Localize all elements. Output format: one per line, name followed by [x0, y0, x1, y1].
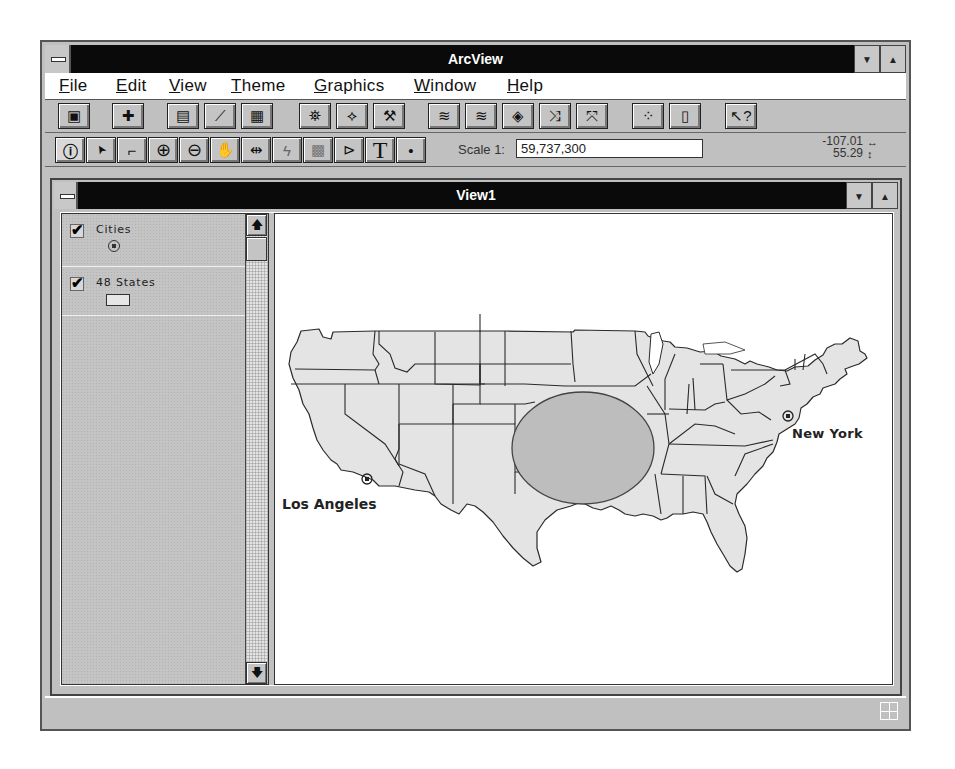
menu-theme[interactable]: Theme	[231, 76, 285, 96]
theme-visibility-checkbox[interactable]: ✔	[70, 224, 84, 238]
scale-label: Scale 1:	[458, 142, 505, 157]
view-maximize-button[interactable]: ▲	[872, 182, 898, 209]
scroll-down-button[interactable]: 🡇	[246, 662, 267, 684]
menu-view[interactable]: View	[169, 76, 207, 96]
hammer-question-icon: ⚒	[383, 107, 396, 125]
measure-icon: ⇹	[250, 141, 263, 159]
text-icon: T	[373, 137, 388, 164]
menu-label: indow	[430, 76, 476, 95]
text-tool[interactable]: T	[365, 137, 395, 163]
menu-graphics[interactable]: Graphics	[314, 76, 384, 96]
menu-accel: G	[314, 76, 328, 95]
pointer-tool[interactable]: ➤	[86, 137, 116, 163]
toc-vertical-scrollbar[interactable]: 🡅 🡇	[245, 214, 268, 684]
theme-properties-icon: ▤	[176, 107, 190, 125]
menu-file[interactable]: File	[59, 76, 88, 96]
down-arrow-icon: 🡇	[251, 666, 263, 680]
layers-icon: ≋	[438, 107, 451, 125]
save-project-button[interactable]: ▣	[58, 103, 90, 129]
lake-erie	[703, 342, 745, 354]
polygon-symbol-icon	[106, 294, 130, 306]
resize-grip-icon[interactable]	[880, 702, 898, 720]
clear-selected-button[interactable]: ▯	[669, 103, 701, 129]
pan-tool[interactable]: ✋	[210, 137, 240, 163]
app-title-bar[interactable]: ArcView ▼ ▲	[45, 45, 906, 73]
zoom-to-themes-button[interactable]: ≋	[465, 103, 497, 129]
menu-accel: T	[231, 76, 242, 95]
clear-selection-icon: ▯	[681, 107, 689, 125]
us-states-map	[275, 214, 895, 687]
find-button[interactable]: ⛯	[299, 103, 331, 129]
menu-window[interactable]: Window	[414, 76, 476, 96]
map-display[interactable]: Los Angeles New York	[274, 213, 893, 685]
hot-link-tool[interactable]: ϟ	[272, 137, 302, 163]
zoom-out-tool[interactable]: ⊖	[179, 137, 209, 163]
maximize-button[interactable]: ▲	[880, 45, 906, 73]
theme-visibility-checkbox[interactable]: ✔	[70, 277, 84, 291]
add-theme-button[interactable]: ✚	[112, 103, 144, 129]
layers-down-icon: ≋	[475, 107, 488, 125]
minimize-icon: ▼	[862, 54, 872, 65]
label-tool[interactable]: ⊳	[334, 137, 364, 163]
diamond-arrow-icon: ◈	[512, 107, 524, 125]
draw-point-tool[interactable]: •	[396, 137, 426, 163]
label-los-angeles[interactable]: Los Angeles	[282, 496, 377, 512]
arrows-inward-icon: ⤨	[549, 107, 561, 125]
select-feature-tool[interactable]: ▩	[303, 137, 333, 163]
y-coordinate: 55.29	[815, 147, 863, 159]
select-graphic-icon: ⁘	[642, 107, 655, 125]
theme-properties-button[interactable]: ▤	[167, 103, 199, 129]
zoom-out-fixed-button[interactable]: ⤧	[576, 103, 608, 129]
zoom-in-tool[interactable]: ⊕	[148, 137, 178, 163]
view-minimize-button[interactable]: ▼	[846, 182, 872, 209]
view-body: ✔ Cities ✔ 48 States 🡅 🡇	[60, 212, 894, 686]
identify-tool[interactable]: ⓘ	[55, 137, 85, 163]
maximize-icon: ▲	[888, 54, 898, 65]
locate-address-button[interactable]: ⟡	[336, 103, 368, 129]
query-builder-button[interactable]: ⚒	[373, 103, 405, 129]
table-icon: ▦	[250, 107, 264, 125]
selection-ellipse-graphic[interactable]	[512, 392, 654, 504]
menu-accel: W	[414, 76, 430, 95]
minimize-button[interactable]: ▼	[854, 45, 880, 73]
vertex-edit-tool[interactable]: ⌐	[117, 137, 147, 163]
theme-entry-cities[interactable]: ✔ Cities	[62, 214, 248, 267]
zoom-in-fixed-button[interactable]: ⤨	[539, 103, 571, 129]
label-new-york[interactable]: New York	[792, 426, 863, 441]
measure-tool[interactable]: ⇹	[241, 137, 271, 163]
coordinate-arrows: ↔ ↕	[867, 136, 878, 160]
view-title-bar[interactable]: View1 ▼ ▲	[54, 182, 898, 209]
up-arrow-icon: 🡅	[251, 218, 263, 232]
menu-edit[interactable]: Edit	[116, 76, 147, 96]
menu-accel: F	[59, 76, 70, 95]
app-title: ArcView	[45, 45, 906, 73]
view-title: View1	[54, 182, 898, 209]
zoom-in-icon: ⊕	[156, 139, 171, 161]
theme-entry-48-states[interactable]: ✔ 48 States	[62, 267, 248, 316]
scroll-thumb[interactable]	[246, 237, 267, 261]
help-button[interactable]: ↖?	[725, 103, 757, 129]
theme-name: Cities	[96, 223, 131, 236]
vertex-icon: ⌐	[128, 142, 137, 159]
binoculars-icon: ⛯	[309, 107, 321, 125]
menu-accel: V	[169, 76, 180, 95]
arrows-outward-icon: ⤧	[586, 107, 598, 125]
menu-label: heme	[242, 76, 286, 95]
add-theme-icon: ✚	[122, 107, 135, 125]
point-icon: •	[408, 142, 413, 159]
edit-legend-button[interactable]: ⟋	[204, 103, 236, 129]
select-feature-icon: ▩	[311, 141, 325, 159]
zoom-out-icon: ⊖	[187, 139, 202, 161]
info-icon: ⓘ	[63, 140, 78, 161]
menu-help[interactable]: Help	[507, 76, 543, 96]
open-theme-table-button[interactable]: ▦	[241, 103, 273, 129]
status-bar	[45, 696, 906, 726]
theme-name: 48 States	[96, 276, 156, 289]
table-of-contents: ✔ Cities ✔ 48 States 🡅 🡇	[61, 213, 269, 685]
scale-input[interactable]: 59,737,300	[516, 139, 703, 158]
zoom-to-selected-button[interactable]: ◈	[502, 103, 534, 129]
scroll-up-button[interactable]: 🡅	[246, 214, 267, 236]
zoom-to-full-extent-button[interactable]: ≋	[428, 103, 460, 129]
select-features-graphic-button[interactable]: ⁘	[632, 103, 664, 129]
arcview-app-window: ArcView ▼ ▲ File Edit View Theme Graphic…	[40, 40, 911, 731]
